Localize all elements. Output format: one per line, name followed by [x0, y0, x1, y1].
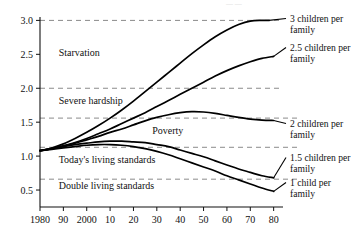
- band-annotation-0: Starvation: [59, 47, 100, 58]
- series-label-3: 1.5 children perfamily: [290, 152, 351, 174]
- series-label-1: 2.5 children perfamily: [290, 42, 351, 64]
- series-label-2: 2 children perfamily: [290, 118, 344, 140]
- x-tick-label-3: 10: [105, 214, 115, 225]
- x-tick-label-4: 20: [128, 214, 138, 225]
- chart-svg: — —0.51.01.52.02.53.01980902000102030405…: [0, 0, 356, 244]
- band-annotation-3: Today's living standards: [59, 154, 156, 165]
- y-tick-label-2: 1.5: [21, 117, 34, 128]
- x-tick-label-8: 60: [222, 214, 232, 225]
- series-label-0: 3 children perfamily: [290, 13, 344, 35]
- series-leader-2: [274, 120, 286, 123]
- band-annotation-4: Double living standards: [59, 180, 155, 191]
- y-tick-label-0: 0.5: [21, 185, 34, 196]
- y-tick-label-1: 1.0: [21, 151, 34, 162]
- series-leader-1: [274, 48, 286, 57]
- series-label-4: 1 child perfamily: [290, 177, 332, 199]
- x-tick-label-2: 2000: [77, 214, 97, 225]
- chart-figure: — —0.51.01.52.02.53.01980902000102030405…: [0, 0, 356, 244]
- series-leader-3: [274, 158, 286, 178]
- y-tick-label-3: 2.0: [21, 83, 34, 94]
- x-tick-label-0: 1980: [30, 214, 50, 225]
- cropped-title-remnant: — —: [225, 0, 243, 8]
- band-annotation-1: Severe hardship: [59, 95, 123, 106]
- x-tick-label-7: 50: [199, 214, 209, 225]
- band-annotation-2: Poverty: [152, 125, 183, 136]
- x-tick-label-9: 70: [245, 214, 255, 225]
- x-tick-label-5: 30: [152, 214, 162, 225]
- y-tick-label-4: 2.5: [21, 49, 34, 60]
- x-tick-label-10: 80: [269, 214, 279, 225]
- x-tick-label-1: 90: [58, 214, 68, 225]
- x-tick-label-6: 40: [175, 214, 185, 225]
- series-leader-4: [274, 183, 286, 192]
- y-tick-label-5: 3.0: [21, 15, 34, 26]
